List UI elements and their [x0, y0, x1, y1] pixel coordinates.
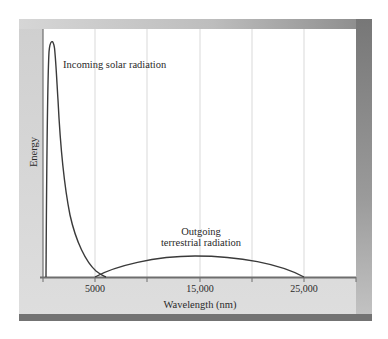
frame-bottom-band	[19, 314, 372, 321]
x-tick-label-15000: 15,000	[186, 283, 214, 294]
chart-svg: Incoming solar radiation Outgoing terres…	[0, 0, 388, 339]
y-axis-label: Energy	[28, 136, 39, 167]
frame-right-band	[356, 19, 372, 314]
terrestrial-annotation-line2: terrestrial radiation	[161, 237, 242, 248]
terrestrial-annotation-line1: Outgoing	[181, 226, 221, 237]
chart-figure: Incoming solar radiation Outgoing terres…	[0, 0, 388, 339]
x-axis-label: Wavelength (nm)	[164, 299, 237, 311]
x-tick-label-25000: 25,000	[290, 283, 318, 294]
solar-annotation: Incoming solar radiation	[63, 59, 167, 70]
frame-top-band	[19, 19, 372, 29]
x-tick-label-5000: 5000	[85, 283, 105, 294]
